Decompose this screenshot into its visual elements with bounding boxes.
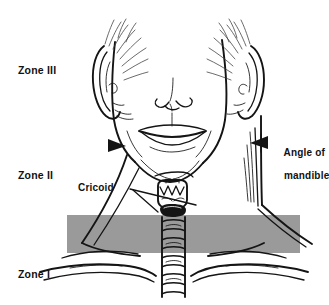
angle-of-mandible-callout: Angle of mandible [272,136,329,192]
cricoid-cartilage [160,204,186,217]
mouth [139,125,206,152]
nose [155,78,192,126]
angle-of-mandible-line1: Angle of [284,147,326,158]
trachea [162,217,185,297]
zone-label-i: Zone I [18,269,50,281]
zone-label-iii: Zone III [18,65,56,77]
face-outline [112,40,226,182]
zone-label-ii: Zone II [18,170,53,182]
cricoid-callout-label: Cricoid [78,182,114,193]
mandible-arrow-left [108,139,126,152]
hair [105,19,250,80]
mandible-arrow-right [250,136,268,149]
right-ear [227,46,264,119]
angle-of-mandible-line2: mandible [284,170,329,181]
